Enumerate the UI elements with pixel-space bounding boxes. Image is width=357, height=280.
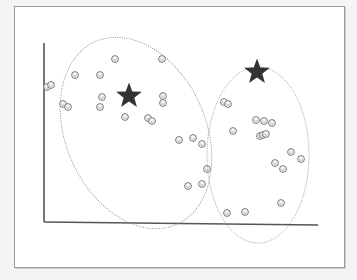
smiley-face-icon: [280, 166, 287, 173]
star-icon: [244, 59, 270, 83]
smiley-face-icon: [48, 82, 55, 89]
smiley-face-icon: [230, 128, 237, 135]
smiley-face-icon: [160, 100, 167, 107]
smiley-face-icon: [97, 72, 104, 79]
smiley-face-icon: [261, 118, 268, 125]
smiley-face-icon: [269, 120, 276, 127]
cluster-boundary-ellipse: [31, 13, 240, 253]
cluster-1: [31, 13, 240, 253]
smiley-face-icon: [65, 104, 72, 111]
smiley-face-icon: [242, 209, 249, 216]
smiley-face-icon: [225, 101, 232, 108]
smiley-face-icon: [122, 114, 129, 121]
smiley-face-icon: [298, 156, 305, 163]
smiley-face-icon: [112, 56, 119, 63]
smiley-face-icon: [199, 181, 206, 188]
smiley-face-icon: [185, 183, 192, 190]
smiley-face-icon: [159, 56, 166, 63]
smiley-face-icon: [278, 200, 285, 207]
smiley-face-icon: [253, 117, 260, 124]
cluster-2: [207, 59, 309, 244]
smiley-face-icon: [190, 135, 197, 142]
smiley-face-icon: [288, 149, 295, 156]
smiley-face-icon: [263, 131, 270, 138]
smiley-face-icon: [272, 160, 279, 167]
star-icon: [116, 83, 142, 107]
smiley-face-icon: [160, 93, 167, 100]
smiley-face-icon: [99, 94, 106, 101]
smiley-face-icon: [224, 210, 231, 217]
smiley-face-icon: [199, 141, 206, 148]
smiley-face-icon: [149, 118, 156, 125]
cluster-boundary-ellipse: [207, 67, 309, 243]
cluster-diagram: [0, 0, 357, 280]
axes: [44, 43, 318, 225]
smiley-face-icon: [176, 137, 183, 144]
smiley-face-icon: [72, 72, 79, 79]
smiley-face-icon: [97, 104, 104, 111]
